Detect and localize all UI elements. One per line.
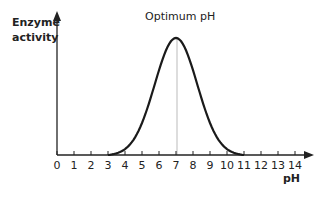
x-tick-label: 8 [185,159,201,172]
y-axis-label-line1: Enzyme [12,15,60,30]
x-tick-label: 6 [151,159,167,172]
x-tick-label: 2 [83,159,99,172]
y-axis-label-line2: activity [12,30,60,45]
x-tick-label: 13 [270,159,286,172]
optimum-ph-annotation: Optimum pH [145,10,215,23]
y-axis-label: Enzyme activity [12,15,60,45]
x-tick-label: 5 [134,159,150,172]
activity-curve [108,38,244,155]
x-tick-label: 11 [236,159,252,172]
x-axis-label: pH [283,172,300,185]
x-tick-label: 7 [168,159,184,172]
x-tick-label: 0 [49,159,65,172]
x-tick-label: 9 [202,159,218,172]
x-tick-label: 4 [117,159,133,172]
x-tick-label: 10 [219,159,235,172]
enzyme-ph-chart: Enzyme activity Optimum pH pH 0123456789… [0,0,322,198]
x-axis-arrow-icon [304,151,314,159]
x-tick-label: 3 [100,159,116,172]
x-tick-label: 12 [253,159,269,172]
x-tick-label: 14 [287,159,303,172]
x-tick-label: 1 [66,159,82,172]
